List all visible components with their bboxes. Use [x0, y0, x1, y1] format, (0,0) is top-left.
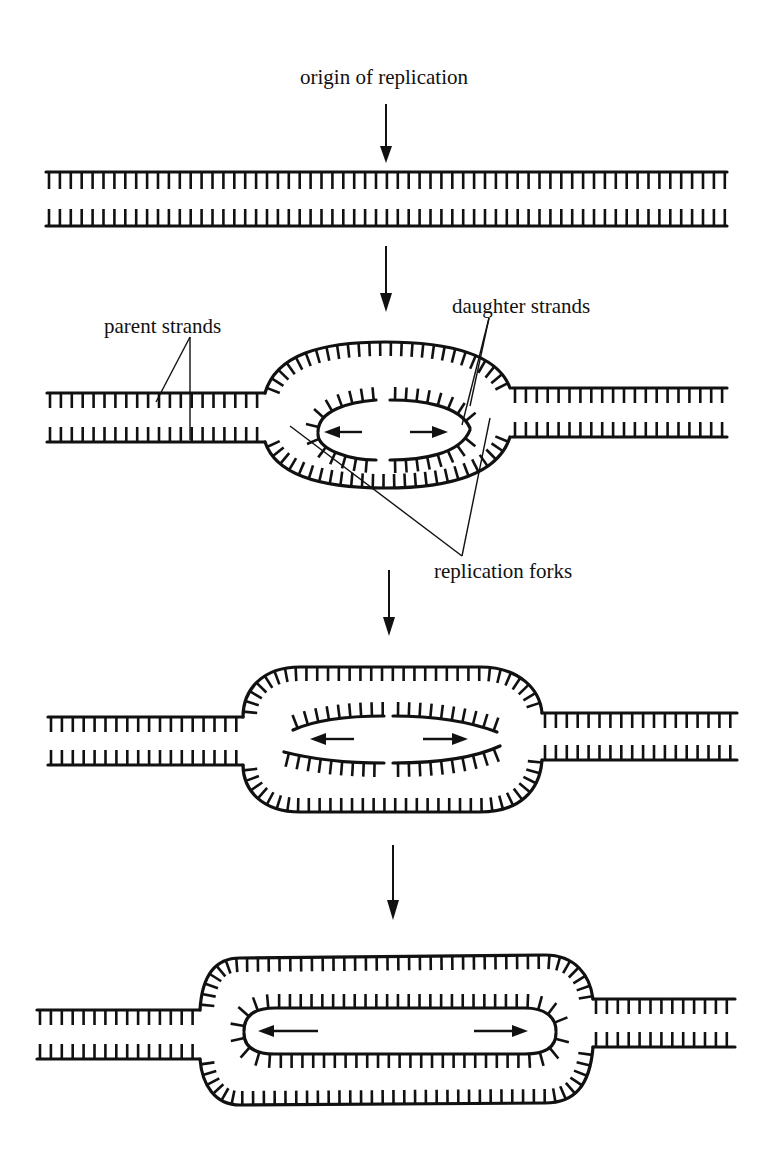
left-bottom-strand — [48, 750, 243, 765]
daughter-bottom-right — [393, 746, 500, 777]
bubble-top-parent — [200, 955, 593, 1010]
right-top-strand — [512, 388, 727, 403]
left-top-strand — [48, 717, 243, 732]
right-bottom-strand — [542, 745, 737, 760]
parent-strands-label: parent strands — [104, 314, 221, 338]
left-bottom-strand — [47, 427, 265, 442]
parent-top-strand — [46, 172, 727, 189]
parent-strands-leader-lines — [156, 337, 190, 440]
daughter-top-left — [293, 702, 384, 730]
origin-of-replication-label: origin of replication — [300, 65, 468, 89]
rightward-fork-arrow-icon — [474, 1025, 528, 1037]
stage-arrow-icon-2 — [380, 246, 392, 312]
left-top-strand — [37, 1010, 200, 1025]
bubble-top-parent — [243, 667, 542, 717]
rightward-fork-arrow-icon — [410, 426, 448, 438]
daughter-bottom-left — [307, 434, 376, 473]
right-bottom-strand — [512, 422, 727, 437]
daughter-top-left — [306, 387, 376, 432]
stage-3-expanded-bubble — [48, 667, 737, 812]
leftward-fork-arrow-icon — [310, 733, 354, 745]
leftward-fork-arrow-icon — [324, 426, 362, 438]
left-bottom-strand — [37, 1044, 200, 1059]
daughter-top — [231, 994, 568, 1031]
daughter-bottom-left — [284, 752, 384, 777]
stage-2-replication-bubble — [47, 342, 727, 488]
daughter-bottom — [231, 1033, 569, 1068]
daughter-strands-label: daughter strands — [452, 294, 590, 318]
stage-arrow-icon-1 — [380, 104, 392, 163]
replication-forks-label: replication forks — [434, 559, 572, 583]
stage-1-unreplicated-dna — [46, 172, 727, 226]
stage-arrow-icon-3 — [383, 570, 395, 636]
stage-4-elongated-bubble — [37, 955, 735, 1105]
right-bottom-strand — [593, 1032, 735, 1047]
leftward-fork-arrow-icon — [258, 1025, 318, 1037]
right-top-strand — [593, 999, 735, 1014]
bubble-top-parent — [265, 342, 510, 393]
rightward-fork-arrow-icon — [423, 733, 468, 745]
bubble-bottom-parent — [243, 760, 542, 812]
parent-bottom-strand — [46, 209, 727, 226]
stage-arrow-icon-4 — [387, 845, 399, 920]
daughter-strands-leader-lines — [462, 318, 489, 425]
dna-replication-diagram: origin of replication parent strands dau… — [0, 0, 782, 1168]
right-top-strand — [542, 713, 737, 728]
daughter-top-right — [393, 702, 498, 732]
